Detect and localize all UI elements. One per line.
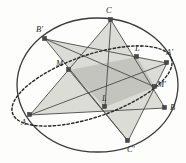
vertex-marker-C: [109, 18, 113, 22]
vertex-marker-A: [28, 113, 32, 117]
vertex-marker-Ap: [165, 61, 169, 65]
geometry-figure: C B' L' A' M M' L B A C': [0, 0, 186, 163]
vertex-marker-Mp: [153, 85, 157, 89]
label-Ap: A': [166, 48, 173, 57]
label-C: C: [106, 6, 112, 15]
vertex-marker-B: [163, 106, 167, 110]
label-Bp: B': [36, 25, 43, 34]
label-Mp: M': [157, 80, 166, 89]
vertex-marker-Cp: [126, 139, 130, 143]
label-L: L: [102, 94, 107, 103]
vertex-marker-Bp: [43, 37, 47, 41]
label-B: B: [170, 103, 175, 112]
vertex-marker-L: [103, 105, 107, 109]
label-Cp: C': [127, 145, 135, 154]
vertex-marker-M: [67, 68, 71, 72]
label-A: A: [21, 118, 26, 127]
vertex-marker-Lp: [135, 55, 139, 59]
label-Lp: L': [135, 44, 142, 53]
label-M: M: [56, 59, 63, 68]
